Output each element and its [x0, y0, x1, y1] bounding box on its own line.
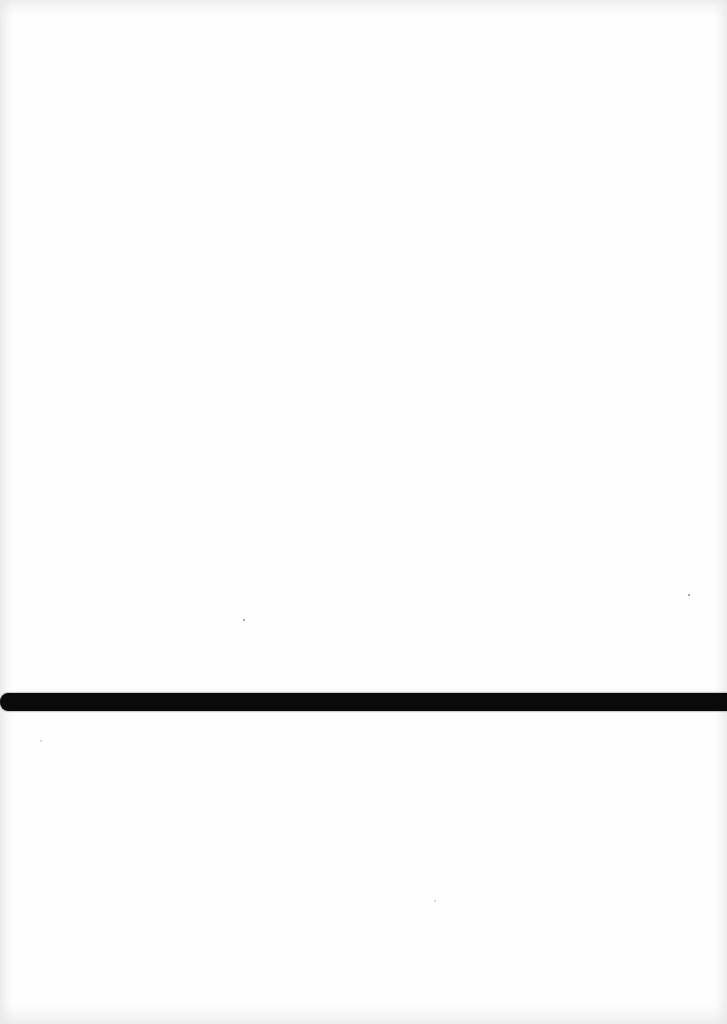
black-horizontal-band	[0, 693, 727, 711]
scan-speck	[688, 594, 690, 596]
scan-speck	[243, 619, 245, 621]
scan-speck	[434, 900, 436, 902]
scanned-page	[0, 0, 727, 1024]
scan-speck	[40, 740, 42, 742]
